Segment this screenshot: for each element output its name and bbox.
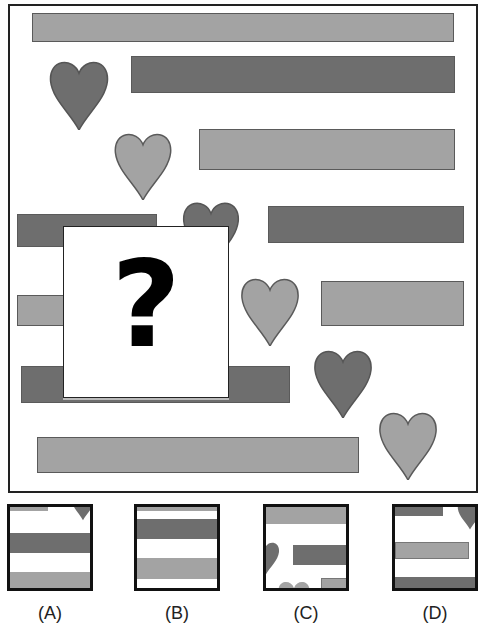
bar-dark (395, 577, 475, 591)
bar-dark (131, 56, 455, 93)
bar-light (17, 295, 67, 326)
bar-dark (10, 533, 90, 553)
option-d-label: (D) (392, 603, 478, 624)
question-mark: ? (64, 245, 228, 365)
heart-icon (113, 129, 173, 200)
option-a-label: (A) (7, 603, 93, 624)
bar-light (321, 578, 349, 590)
bar-dark (293, 545, 349, 565)
missing-piece-box: ? (63, 226, 229, 398)
bar-light (199, 129, 455, 170)
heart-icon (457, 504, 478, 531)
option-c-label: (C) (263, 603, 349, 624)
bar-light (10, 572, 90, 591)
bar-light (266, 507, 346, 524)
option-a[interactable] (7, 504, 93, 591)
heart-icon (72, 504, 93, 521)
bar-light (395, 542, 469, 559)
bar-dark (268, 206, 464, 243)
heart-icon (378, 408, 438, 480)
option-d[interactable] (392, 504, 478, 591)
heart-icon (263, 539, 280, 577)
heart-icon (48, 57, 110, 130)
bar-light (10, 507, 48, 511)
option-b-label: (B) (134, 603, 220, 624)
bar-light (32, 13, 454, 42)
heart-icon (313, 346, 373, 418)
bar-light (137, 558, 217, 579)
option-b[interactable] (134, 504, 220, 591)
bar-dark (137, 519, 217, 539)
bar-light (321, 281, 464, 326)
bar-light (37, 437, 359, 473)
heart-icon (277, 579, 311, 591)
bar-light (137, 507, 217, 511)
heart-icon (240, 274, 300, 346)
option-c[interactable] (263, 504, 349, 591)
bar-dark (395, 507, 443, 516)
